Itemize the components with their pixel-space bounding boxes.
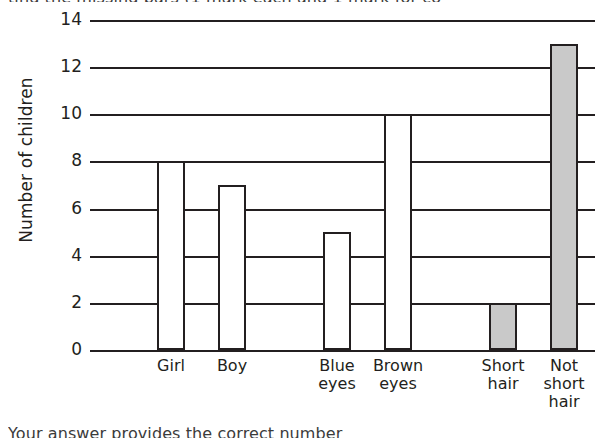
x-label-line: short	[527, 375, 601, 393]
x-label-not-short-hair: Notshorthair	[527, 357, 601, 411]
y-axis-tick-labels: 02468101214	[42, 20, 82, 350]
bar-short-hair	[489, 303, 517, 350]
y-tick-label-2: 2	[42, 294, 82, 311]
bar-not-short-hair	[550, 44, 578, 350]
y-tick-label-10: 10	[42, 105, 82, 122]
y-tick-label-4: 4	[42, 247, 82, 264]
bar-boy	[218, 185, 246, 350]
cropped-question-text-bottom: Your answer provides the correct number	[8, 424, 609, 438]
y-tick-label-14: 14	[42, 11, 82, 28]
x-label-line: Brown	[361, 357, 435, 375]
bar-brown-eyes	[384, 114, 412, 350]
x-label-brown-eyes: Browneyes	[361, 357, 435, 393]
gridline-10	[90, 114, 595, 116]
gridline-0	[90, 350, 595, 352]
gridline-12	[90, 67, 595, 69]
plot-area	[90, 20, 595, 350]
x-label-boy: Boy	[195, 357, 269, 375]
y-tick-label-8: 8	[42, 152, 82, 169]
x-label-line: Not	[527, 357, 601, 375]
x-label-line: Boy	[195, 357, 269, 375]
bar-blue-eyes	[323, 232, 351, 350]
y-tick-label-12: 12	[42, 58, 82, 75]
y-tick-label-6: 6	[42, 200, 82, 217]
gridline-14	[90, 20, 595, 22]
cropped-question-text-top: ting the missing bars (1 mark each and 1…	[8, 0, 609, 2]
bar-girl	[157, 161, 185, 350]
x-label-line: eyes	[361, 375, 435, 393]
y-tick-label-0: 0	[42, 341, 82, 358]
y-axis-title: Number of children	[16, 60, 36, 260]
x-label-line: hair	[527, 393, 601, 411]
